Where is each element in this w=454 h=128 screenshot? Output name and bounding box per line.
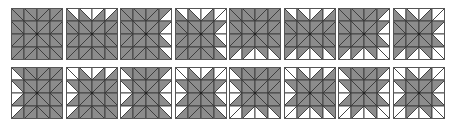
tile-7 xyxy=(338,8,390,60)
tile-12 xyxy=(175,67,227,119)
tile-pattern-icon xyxy=(229,67,281,119)
tile-pattern-icon xyxy=(120,67,172,119)
tile-pattern-icon xyxy=(11,8,63,60)
tile-pattern-icon xyxy=(393,8,445,60)
tile-pattern-icon xyxy=(284,8,336,60)
tile-4 xyxy=(175,8,227,60)
tile-pattern-icon xyxy=(66,67,118,119)
tile-11 xyxy=(120,67,172,119)
tile-9 xyxy=(11,67,63,119)
tile-8 xyxy=(393,8,445,60)
tile-pattern-icon xyxy=(66,8,118,60)
tile-pattern-icon xyxy=(338,67,390,119)
tile-pattern-icon xyxy=(120,8,172,60)
tile-1 xyxy=(11,8,63,60)
tile-14 xyxy=(284,67,336,119)
tile-pattern-icon xyxy=(393,67,445,119)
tile-2 xyxy=(66,8,118,60)
tile-5 xyxy=(229,8,281,60)
tile-15 xyxy=(338,67,390,119)
tile-grid xyxy=(11,8,445,118)
tile-pattern-icon xyxy=(229,8,281,60)
tile-6 xyxy=(284,8,336,60)
tile-10 xyxy=(66,67,118,119)
tile-pattern-icon xyxy=(338,8,390,60)
tile-16 xyxy=(393,67,445,119)
tile-3 xyxy=(120,8,172,60)
tile-pattern-icon xyxy=(11,67,63,119)
tile-pattern-icon xyxy=(175,67,227,119)
tile-pattern-icon xyxy=(175,8,227,60)
tile-pattern-icon xyxy=(284,67,336,119)
tile-13 xyxy=(229,67,281,119)
